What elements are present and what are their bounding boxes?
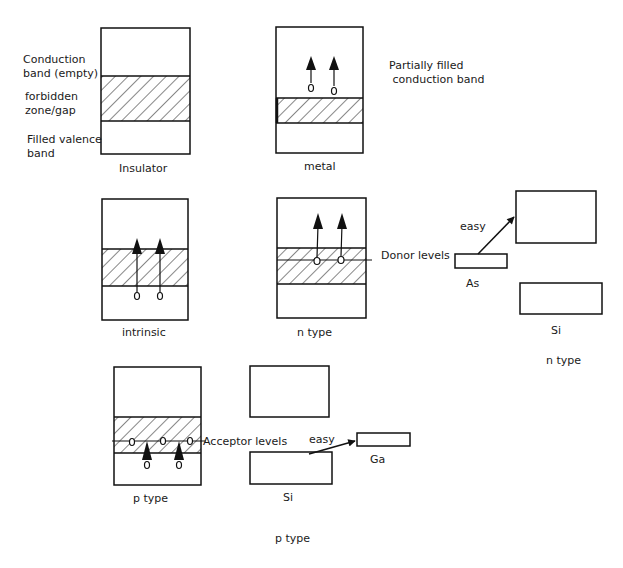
si-conduction-band-box (250, 366, 329, 417)
valence-band-label: Filled valence band (27, 133, 102, 161)
p-type-energy-detail (250, 366, 410, 484)
si-valence-band-box (520, 283, 602, 314)
p-easy-label: easy (309, 433, 335, 447)
as-donor-level-box (455, 254, 507, 268)
si-conduction-band-box (516, 191, 596, 243)
p-type-detail-caption: p type (275, 532, 310, 546)
electron-arrow-icon (306, 56, 316, 92)
forbidden-gap-hatch (101, 76, 190, 121)
n-type-caption: n type (297, 326, 332, 340)
donor-levels-label: Donor levels (381, 249, 450, 263)
n-easy-label: easy (460, 220, 486, 234)
metal-band-box (276, 27, 363, 153)
electron-arrow-icon (329, 56, 339, 95)
p-si-label: Si (283, 491, 293, 505)
insulator-band-box (101, 28, 190, 154)
metal-caption: metal (304, 160, 336, 174)
n-type-detail-caption: n type (546, 354, 581, 368)
n-si-label: Si (551, 324, 561, 338)
acceptor-levels-label: Acceptor levels (203, 435, 287, 449)
as-label: As (466, 277, 479, 291)
partially-filled-annotation: Partially filled conduction band (389, 59, 485, 87)
ga-acceptor-level-box (357, 433, 410, 446)
si-valence-band-box (250, 452, 332, 484)
n-type-energy-detail (455, 191, 602, 314)
intrinsic-caption: intrinsic (122, 326, 166, 340)
p-type-band-box (112, 367, 206, 485)
p-type-caption: p type (133, 492, 168, 506)
intrinsic-band-box (102, 199, 188, 320)
band-diagram-canvas (0, 0, 623, 568)
forbidden-zone-label: forbidden zone/gap (25, 90, 78, 118)
ga-label: Ga (370, 453, 385, 467)
conduction-band-label: Conduction band (empty) (23, 53, 98, 81)
n-type-band-box (277, 198, 372, 318)
insulator-caption: Insulator (119, 162, 167, 176)
